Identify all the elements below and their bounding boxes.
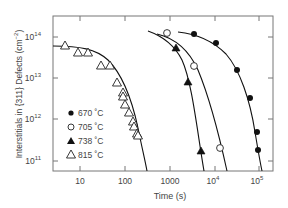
y-tick-labels: 1014 1013 1012 1011 (25, 31, 42, 166)
filled-circle-marker (234, 67, 240, 73)
legend-label-705: 705 ˚C (78, 122, 104, 132)
x-tick-labels: 10 100 1000 104 105 (75, 175, 264, 186)
open-triangle-marker (84, 48, 93, 56)
open-circle-marker (164, 30, 171, 37)
series-705-markers (164, 30, 224, 152)
x-axis-label: Time (s) (154, 191, 187, 201)
x-axis-ticks (80, 16, 259, 171)
y-tick-label: 1012 (25, 113, 42, 124)
fit-curve-705 (157, 34, 227, 171)
x-tick-label: 1000 (161, 176, 180, 186)
y-tick-label: 1013 (25, 72, 42, 83)
legend: 670 ˚C 705 ˚C 738 ˚C 815 ˚C (67, 108, 104, 160)
chart-container: 10 100 1000 104 105 Time (s) 1014 1013 1… (0, 0, 288, 208)
fit-curve-738 (148, 31, 204, 171)
x-tick-label: 105 (251, 175, 264, 186)
legend-open-triangle-icon (67, 150, 76, 158)
open-circle-marker (191, 63, 198, 70)
filled-circle-marker (255, 147, 261, 153)
open-triangle-marker (61, 41, 70, 49)
legend-open-circle-icon (68, 124, 74, 130)
legend-label-670: 670 ˚C (78, 108, 104, 118)
y-tick-label: 1011 (25, 155, 41, 166)
plot-frame (53, 16, 273, 171)
x-tick-label: 100 (118, 176, 132, 186)
filled-triangle-marker (197, 147, 205, 154)
legend-label-738: 738 ˚C (78, 136, 104, 146)
open-triangle-marker (97, 61, 106, 69)
x-tick-label: 104 (207, 175, 220, 186)
open-triangle-marker (125, 108, 134, 116)
filled-circle-marker (213, 40, 219, 46)
y-tick-label: 1014 (25, 31, 42, 42)
series-738-markers (172, 44, 205, 154)
legend-filled-circle-icon (68, 110, 73, 115)
legend-filled-triangle-icon (67, 137, 75, 144)
filled-triangle-marker (184, 78, 192, 85)
y-axis-label: Interstitials in {311} Defects (cm−2) (13, 30, 24, 159)
x-tick-label: 10 (75, 176, 85, 186)
open-triangle-marker (121, 100, 130, 108)
filled-circle-marker (247, 95, 253, 101)
filled-circle-marker (191, 31, 197, 37)
filled-circle-marker (254, 129, 260, 135)
series-670-markers (191, 31, 261, 153)
open-circle-marker (217, 145, 224, 152)
legend-label-815: 815 ˚C (78, 150, 104, 160)
open-triangle-marker (113, 78, 122, 86)
open-triangle-marker (74, 48, 83, 56)
